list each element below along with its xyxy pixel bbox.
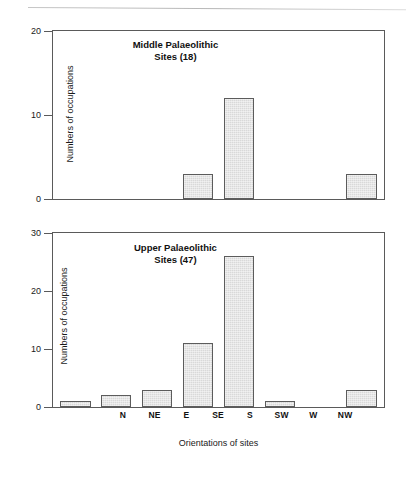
y-tick-label: 10 [31, 110, 41, 120]
y-tick-label: 30 [31, 228, 41, 238]
x-axis-title: Orientations of sites [52, 438, 385, 448]
bar-slot-ne [96, 31, 137, 199]
bar-upper-s [224, 256, 254, 407]
bar-slot-e [137, 31, 178, 199]
bar-middle-nw [346, 174, 376, 199]
y-tick-label: 20 [31, 286, 41, 296]
bar-upper-e [142, 390, 172, 407]
x-axis-label-s: S [234, 410, 266, 420]
y-tick-mark [44, 115, 53, 116]
figure-bar-charts: Middle Palaeolithic Sites (18) Numbers o… [0, 0, 406, 491]
bar-slot-s [219, 233, 260, 407]
bar-slot-s [219, 31, 260, 199]
x-axis-label-n: N [107, 410, 139, 420]
bar-slot-se [178, 31, 219, 199]
y-tick-mark [44, 349, 53, 350]
x-axis-category-labels: NNEESESSWWNW [105, 410, 363, 420]
scan-artifact-line [28, 7, 406, 10]
bar-series-upper [53, 233, 384, 407]
bar-slot-w [300, 31, 341, 199]
y-tick-mark [44, 233, 53, 234]
bar-slot-nw [341, 233, 382, 407]
x-axis-label-e: E [171, 410, 203, 420]
bar-middle-s [224, 98, 254, 199]
bar-upper-sw [265, 401, 295, 407]
y-tick-label: 0 [36, 194, 41, 204]
bar-upper-n [60, 401, 90, 407]
bar-slot-n [55, 31, 96, 199]
bar-slot-sw [259, 233, 300, 407]
plot-area-upper: Upper Palaeolithic Sites (47) Numbers of… [52, 232, 385, 408]
bar-slot-n [55, 233, 96, 407]
chart-panel-middle-palaeolithic: Middle Palaeolithic Sites (18) Numbers o… [0, 18, 406, 210]
bar-upper-nw [346, 390, 376, 407]
y-tick-label: 10 [31, 344, 41, 354]
bar-slot-se [178, 233, 219, 407]
plot-area-middle: Middle Palaeolithic Sites (18) Numbers o… [52, 30, 385, 200]
x-axis-label-w: W [298, 410, 330, 420]
y-tick-mark [44, 31, 53, 32]
y-tick-mark [44, 407, 53, 408]
bar-upper-se [183, 343, 213, 407]
x-axis-label-nw: NW [329, 410, 361, 420]
y-tick-label: 0 [36, 402, 41, 412]
bar-series-middle [53, 31, 384, 199]
chart-panel-upper-palaeolithic: Upper Palaeolithic Sites (47) Numbers of… [0, 218, 406, 450]
y-tick-mark [44, 291, 53, 292]
bar-slot-ne [96, 233, 137, 407]
x-axis-label-ne: NE [139, 410, 171, 420]
y-tick-mark [44, 199, 53, 200]
bar-slot-nw [341, 31, 382, 199]
bar-slot-e [137, 233, 178, 407]
bar-upper-ne [101, 395, 131, 407]
x-axis-label-sw: SW [266, 410, 298, 420]
bar-slot-w [300, 233, 341, 407]
x-axis-label-se: SE [202, 410, 234, 420]
y-tick-label: 20 [31, 26, 41, 36]
bar-middle-se [183, 174, 213, 199]
bar-slot-sw [259, 31, 300, 199]
